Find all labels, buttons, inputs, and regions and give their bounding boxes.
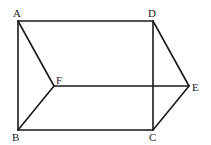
label-E: E <box>192 81 199 93</box>
edge-FB <box>18 86 54 130</box>
edge-AF <box>18 21 54 86</box>
edge-DE <box>153 21 189 86</box>
label-B: B <box>12 131 19 143</box>
label-F: F <box>56 74 62 86</box>
label-C: C <box>149 131 156 143</box>
prism-diagram: A D F E B C <box>0 0 211 145</box>
label-D: D <box>148 7 156 19</box>
edge-EC <box>153 86 189 130</box>
label-A: A <box>13 7 21 19</box>
